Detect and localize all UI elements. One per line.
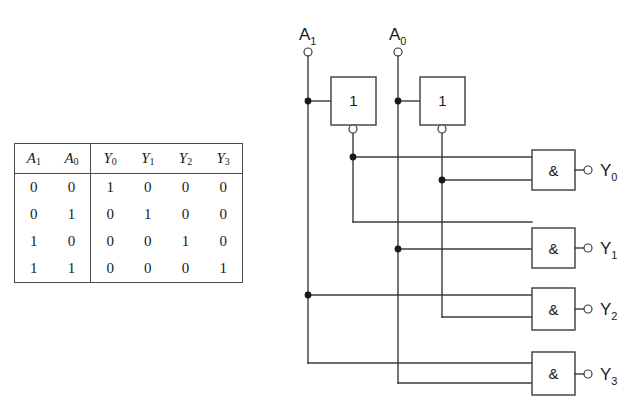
and-gate-y1-label: & [548, 240, 558, 257]
inverter-1-output-bubble-icon [349, 125, 357, 133]
inverter-1-label: 1 [349, 92, 357, 109]
output-label-y3: Y3 [600, 365, 617, 387]
and-gate-y3-label: & [548, 365, 558, 382]
and-gate-y2-label: & [548, 301, 558, 318]
output-label-y1: Y1 [600, 239, 617, 261]
output-terminal-y3-icon [584, 370, 592, 378]
junction-dot-not-a1-y0 [350, 154, 357, 161]
junction-dot-a0-inverter [395, 98, 402, 105]
output-label-y0: Y0 [600, 161, 617, 183]
junction-dot-a1-inverter [305, 98, 312, 105]
input-label-a1: A1 [299, 25, 316, 47]
input-label-a0: A0 [389, 25, 406, 47]
junction-dot-not-a0-y0 [439, 177, 446, 184]
circuit-diagram: 1 1 & Y0 & Y1 [0, 0, 642, 420]
input-terminal-a1-icon [304, 48, 312, 56]
inverter-2-label: 1 [438, 92, 446, 109]
inverter-2-output-bubble-icon [438, 125, 446, 133]
output-terminal-y2-icon [584, 305, 592, 313]
output-terminal-y1-icon [584, 244, 592, 252]
junction-dot-a0-y1 [395, 246, 402, 253]
junction-dot-a1-y2 [305, 292, 312, 299]
output-label-y2: Y2 [600, 300, 617, 322]
input-terminal-a0-icon [394, 48, 402, 56]
figure-root: A1 A0 Y0 Y1 Y2 Y3 0 0 1 0 0 0 [0, 0, 642, 420]
output-terminal-y0-icon [584, 166, 592, 174]
and-gate-y0-label: & [548, 162, 558, 179]
